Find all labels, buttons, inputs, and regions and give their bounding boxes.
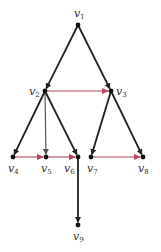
label-v7: v7 [87,162,98,176]
edge-v2-v5 [45,91,46,154]
node-v7 [89,155,94,160]
label-v9: v9 [73,230,84,244]
edge-v3-v8 [111,91,142,154]
label-v3: v3 [116,85,127,99]
label-v6: v6 [64,162,75,176]
node-v1 [76,23,81,28]
label-v8: v8 [138,162,149,176]
edge-v2-v4 [14,91,45,154]
edge-v1-v2 [46,25,78,88]
label-v1: v1 [74,7,85,21]
edge-v3-v7 [92,91,111,154]
node-v3 [109,89,114,94]
edge-v2-v6 [45,91,77,154]
edge-v1-v3 [78,25,110,88]
node-v9 [76,223,81,228]
label-v2: v2 [29,85,40,99]
directed-tree-diagram: v1v2v3v4v5v6v7v8v9 [0,0,161,252]
node-v4 [11,155,16,160]
edges-layer [13,25,142,222]
node-v8 [141,155,146,160]
node-v2 [43,89,48,94]
label-v5: v5 [41,162,52,176]
node-v5 [44,155,49,160]
node-v6 [76,155,81,160]
label-v4: v4 [8,162,19,176]
